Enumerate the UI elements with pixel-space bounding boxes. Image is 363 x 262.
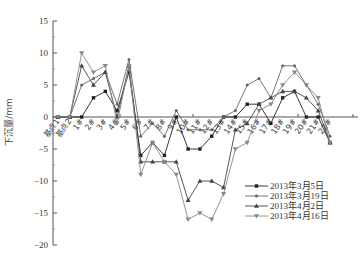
y-tick-label: 0: [44, 112, 49, 122]
settlement-line-chart: 151050−5−10−15−20 基点1基点21#2#3#4#5#6#7#8#…: [0, 0, 363, 262]
y-tick-label: 15: [39, 16, 49, 26]
legend-label: 2013年3月19日: [270, 190, 329, 201]
y-axis-label: 下沉量/mm: [4, 98, 14, 146]
y-tick-label: 5: [44, 80, 49, 90]
y-tick-label: −5: [38, 144, 48, 154]
x-tick-label: 8#: [154, 117, 168, 132]
legend-item: 2013年4月16日: [245, 210, 329, 221]
x-tick-label: 2#: [83, 117, 97, 132]
y-tick-label: −15: [34, 208, 49, 218]
y-tick-label: −20: [34, 240, 49, 250]
x-tick-label: 5#: [118, 117, 132, 132]
x-tick-label: 4#: [107, 117, 121, 132]
series-square: [56, 71, 331, 158]
legend-label: 2013年4月2日: [270, 200, 324, 211]
x-tick-label: 1#: [71, 117, 85, 132]
x-tick-label: 3#: [95, 117, 109, 132]
legend-item: 2013年3月19日: [245, 190, 329, 201]
x-axis: 基点1基点21#2#3#4#5#6#7#8#9#10#11#12#13#14#1…: [41, 114, 358, 139]
y-tick-label: 10: [39, 48, 49, 58]
x-tick-label: 7#: [142, 117, 156, 132]
legend-label: 2013年3月5日: [270, 180, 324, 191]
legend-item: 2013年4月2日: [245, 200, 324, 211]
legend-label: 2013年4月16日: [270, 210, 329, 221]
legend: 2013年3月5日2013年3月19日2013年4月2日2013年4月16日: [245, 180, 329, 221]
y-tick-label: −10: [34, 176, 49, 186]
legend-item: 2013年3月5日: [245, 180, 324, 191]
